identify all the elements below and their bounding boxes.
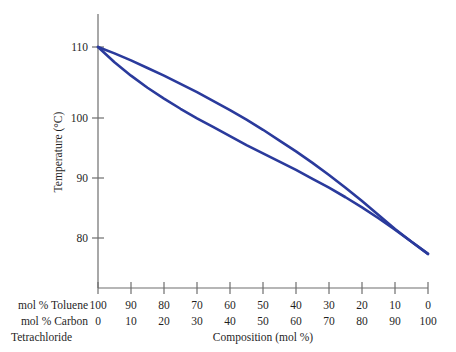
y-axis-title: Temperature (°C) [52, 111, 65, 192]
x-tick-label-ccl4: 40 [224, 315, 236, 327]
x-tick-label-ccl4: 20 [158, 315, 170, 327]
y-tick-label: 80 [77, 232, 89, 244]
x-tick-label-ccl4: 60 [290, 315, 302, 327]
y-tick-label: 90 [77, 172, 89, 184]
chart-canvas: 110 100 90 80 Temperature (°C) 100 90 80 [0, 0, 456, 352]
x-tick-label-ccl4: 10 [125, 315, 137, 327]
x-tick-labels-toluene: 100 90 80 70 60 50 40 30 20 10 0 [89, 299, 431, 311]
x-axis-title: Composition (mol %) [213, 331, 313, 344]
liquid-curve [98, 47, 428, 254]
x-tick-label-toluene: 80 [158, 299, 170, 311]
x-tick-label-toluene: 20 [356, 299, 368, 311]
axis-row-label-toluene: mol % Toluene [18, 299, 88, 311]
x-tick-label-toluene: 70 [191, 299, 203, 311]
y-tick-label: 110 [71, 41, 88, 53]
x-tick-label-ccl4: 90 [389, 315, 401, 327]
x-tick-label-ccl4: 0 [95, 315, 101, 327]
phase-diagram-figure: 110 100 90 80 Temperature (°C) 100 90 80 [0, 0, 456, 352]
x-tick-label-toluene: 40 [290, 299, 302, 311]
x-tick-label-toluene: 30 [323, 299, 335, 311]
x-tick-label-toluene: 90 [125, 299, 137, 311]
x-tick-label-ccl4: 80 [356, 315, 368, 327]
x-tick-label-ccl4: 50 [257, 315, 269, 327]
y-tick-labels: 110 100 90 80 [71, 41, 89, 244]
x-tick-label-toluene: 60 [224, 299, 236, 311]
x-tick-label-toluene: 10 [389, 299, 401, 311]
axis-row-label-carbon: mol % Carbon [21, 315, 88, 327]
x-tick-label-ccl4: 70 [323, 315, 335, 327]
y-tick-label: 100 [71, 112, 89, 124]
x-tick-label-toluene: 0 [425, 299, 431, 311]
x-tick-label-ccl4: 30 [191, 315, 203, 327]
x-tick-label-toluene: 100 [89, 299, 107, 311]
x-tick-labels-carbon-tetrachloride: 0 10 20 30 40 50 60 70 80 90 100 [95, 315, 437, 327]
vapor-curve [98, 47, 428, 254]
axis-row-label-tetrachloride: Tetrachloride [11, 331, 72, 343]
x-tick-label-toluene: 50 [257, 299, 269, 311]
x-tick-label-ccl4: 100 [419, 315, 437, 327]
